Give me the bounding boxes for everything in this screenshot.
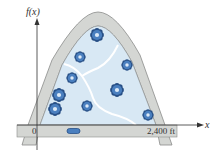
x-axis-arrow-icon	[197, 123, 204, 128]
tree-icon	[66, 72, 78, 84]
y-axis-arrow-icon	[35, 18, 40, 25]
y-axis-label: f(x)	[26, 6, 40, 17]
origin-label: 0	[32, 126, 37, 136]
tree-icon	[121, 59, 133, 71]
tree-icon	[142, 109, 154, 121]
tree-icon	[74, 51, 86, 63]
tree-icon	[48, 102, 62, 116]
tree-icon	[52, 88, 66, 102]
tree-icon	[81, 100, 93, 112]
tree-icon	[90, 28, 104, 42]
road-marker	[67, 129, 80, 134]
x-axis-label: x	[205, 119, 209, 130]
tree-icon	[110, 83, 124, 97]
distance-label: 2,400 ft	[147, 126, 175, 136]
